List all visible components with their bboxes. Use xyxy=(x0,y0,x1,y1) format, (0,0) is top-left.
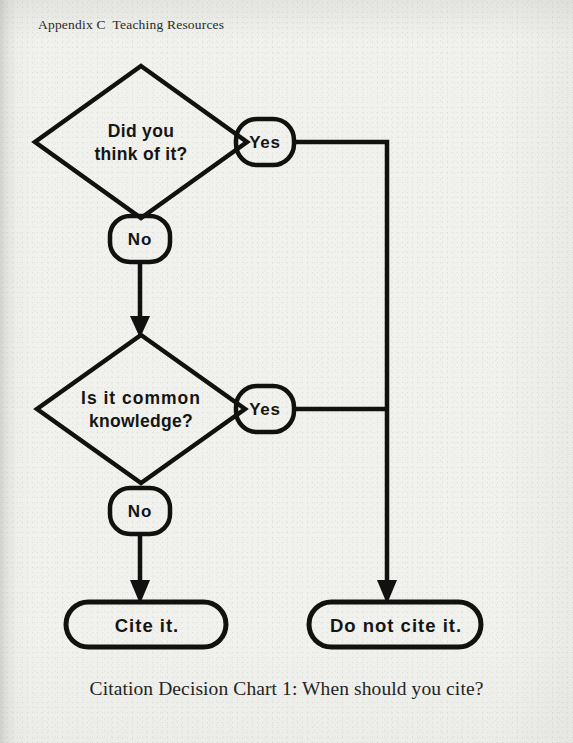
no-2-label: No xyxy=(128,502,152,521)
question-2-line-2: knowledge? xyxy=(89,411,193,431)
do-not-cite-it-label: Do not cite it. xyxy=(330,615,462,636)
node-do-not-cite-it[interactable]: Do not cite it. xyxy=(309,602,481,647)
cite-it-label: Cite it. xyxy=(115,615,180,636)
figure-caption: Citation Decision Chart 1: When should y… xyxy=(0,678,573,700)
node-question-1[interactable]: Did you think of it? xyxy=(35,66,247,218)
question-1-line-2: think of it? xyxy=(94,144,187,164)
edge-yes1-to-trunk xyxy=(294,142,387,409)
node-cite-it[interactable]: Cite it. xyxy=(66,602,226,647)
node-question-2[interactable]: Is it common knowledge? xyxy=(37,335,245,483)
diamond-shape xyxy=(35,66,247,218)
question-1-line-1: Did you xyxy=(108,121,174,141)
yes-1-label: Yes xyxy=(249,133,281,152)
scanned-page: Appendix C Teaching Resources Did you th… xyxy=(0,0,573,743)
flow-edges xyxy=(130,142,397,604)
question-2-line-1: Is it common xyxy=(81,388,201,408)
node-no-1[interactable]: No xyxy=(110,216,170,262)
diamond-shape xyxy=(37,335,245,483)
citation-decision-flowchart: Did you think of it? Yes No Is it common… xyxy=(0,0,573,743)
yes-2-label: Yes xyxy=(249,400,281,419)
no-1-label: No xyxy=(128,230,152,249)
node-no-2[interactable]: No xyxy=(110,488,170,534)
